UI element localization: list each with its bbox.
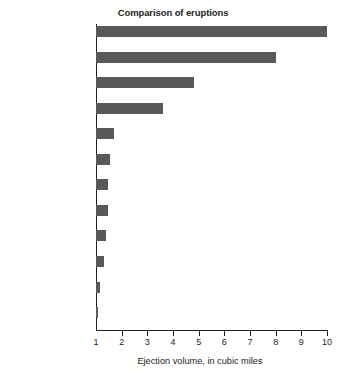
bar	[96, 77, 194, 88]
x-tick-mark	[173, 331, 174, 336]
x-axis-label: Ejection volume, in cubic miles	[60, 356, 340, 366]
bar	[96, 205, 108, 216]
x-tick-mark	[147, 331, 148, 336]
x-tick-label: 10	[312, 337, 342, 347]
bar	[96, 256, 104, 267]
bar	[96, 282, 100, 293]
x-tick-mark	[327, 331, 328, 336]
bar	[96, 230, 106, 241]
bar	[96, 154, 110, 165]
x-tick-mark	[276, 331, 277, 336]
x-tick-mark	[301, 331, 302, 336]
eruption-comparison-chart: Comparison of eruptions Mount Mazama,Ore…	[0, 0, 346, 381]
bar	[96, 179, 108, 190]
bar	[96, 103, 163, 114]
x-tick-mark	[122, 331, 123, 336]
bar	[96, 128, 114, 139]
x-axis-line	[96, 330, 328, 331]
x-tick-mark	[224, 331, 225, 336]
bar	[96, 52, 276, 63]
bar	[96, 26, 327, 37]
bar	[96, 307, 98, 318]
x-tick-mark	[199, 331, 200, 336]
chart-title: Comparison of eruptions	[0, 7, 346, 18]
x-tick-mark	[250, 331, 251, 336]
